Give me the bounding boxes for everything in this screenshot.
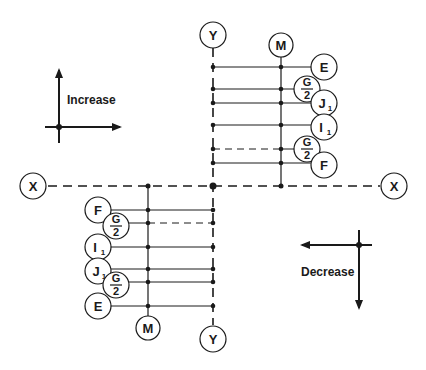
lower-left-group: M F G 2 I 1: [85, 184, 215, 341]
x-axis-left-label: X: [29, 179, 38, 194]
svg-text:I: I: [319, 120, 323, 135]
svg-text:I: I: [93, 240, 97, 255]
row-upper-i1: I 1: [211, 114, 337, 140]
row-lower-i1: I 1: [85, 234, 215, 260]
row-lower-g2-dashed: G 2: [103, 213, 215, 239]
svg-text:1: 1: [327, 128, 332, 137]
force-diagram: X X Y Y M E G 2: [0, 0, 426, 370]
row-lower-e: E: [85, 293, 215, 319]
svg-text:G: G: [112, 213, 121, 225]
y-axis-top-label: Y: [209, 28, 218, 43]
row-upper-j1: J 1: [211, 90, 337, 116]
y-axis-bottom-label: Y: [209, 332, 218, 347]
row-upper-g2-dashed: G 2: [211, 136, 320, 162]
y-axis: Y Y: [200, 22, 226, 352]
svg-text:F: F: [320, 158, 328, 173]
member-label-lower: M: [143, 321, 154, 336]
row-lower-g2-solid: G 2: [103, 272, 215, 298]
row-upper-g2-solid: G 2: [211, 76, 320, 102]
x-axis-right-label: X: [390, 179, 399, 194]
upper-right-group: M E G 2 J 1: [211, 33, 337, 189]
svg-text:G: G: [112, 272, 121, 284]
svg-text:2: 2: [113, 285, 119, 297]
svg-text:1: 1: [328, 104, 333, 113]
row-upper-f: F: [211, 152, 337, 178]
decrease-label: Decrease: [301, 265, 355, 279]
svg-text:E: E: [94, 299, 103, 314]
svg-text:G: G: [303, 76, 312, 88]
svg-text:J: J: [318, 96, 325, 111]
svg-text:2: 2: [304, 89, 310, 101]
increase-label: Increase: [67, 93, 116, 107]
origin-dot: [210, 183, 217, 190]
increase-legend: Increase: [45, 70, 120, 143]
row-label: E: [320, 60, 329, 75]
svg-text:2: 2: [113, 226, 119, 238]
decrease-legend: Decrease: [301, 230, 372, 308]
member-label-upper: M: [276, 38, 287, 53]
svg-text:2: 2: [304, 149, 310, 161]
row-upper-e: E: [211, 54, 337, 80]
svg-text:G: G: [303, 136, 312, 148]
svg-text:J: J: [92, 264, 99, 279]
svg-text:F: F: [94, 203, 102, 218]
svg-text:1: 1: [101, 248, 106, 257]
